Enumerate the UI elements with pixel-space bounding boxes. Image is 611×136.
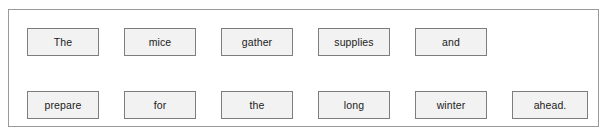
tile-slot[interactable]: the [221, 91, 293, 119]
word-tile[interactable]: winter [415, 91, 487, 119]
word-tile[interactable]: ahead. [512, 91, 588, 119]
word-tile-empty [512, 28, 588, 56]
tile-row-1: The mice gather supplies and [27, 28, 583, 56]
word-tile[interactable]: The [27, 28, 99, 56]
word-tile[interactable]: long [318, 91, 390, 119]
tile-slot[interactable]: ahead. [512, 91, 588, 119]
tile-slot[interactable]: long [318, 91, 390, 119]
tile-row-2: prepare for the long winter ahead. [27, 91, 583, 119]
word-tile[interactable]: supplies [318, 28, 390, 56]
tile-slot[interactable]: prepare [27, 91, 99, 119]
tile-slot[interactable]: mice [124, 28, 196, 56]
word-tile[interactable]: mice [124, 28, 196, 56]
tile-slot[interactable]: for [124, 91, 196, 119]
word-tile[interactable]: and [415, 28, 487, 56]
word-tile[interactable]: for [124, 91, 196, 119]
tile-slot-empty [512, 28, 588, 56]
tile-slot[interactable]: winter [415, 91, 487, 119]
tile-slot[interactable]: The [27, 28, 99, 56]
tile-slot[interactable]: supplies [318, 28, 390, 56]
tile-slot[interactable]: gather [221, 28, 293, 56]
tile-grid: The mice gather supplies and prepare [9, 10, 598, 126]
word-tile[interactable]: prepare [27, 91, 99, 119]
word-tile[interactable]: gather [221, 28, 293, 56]
tile-slot[interactable]: and [415, 28, 487, 56]
sentence-builder-panel: The mice gather supplies and prepare [8, 9, 599, 127]
word-tile[interactable]: the [221, 91, 293, 119]
